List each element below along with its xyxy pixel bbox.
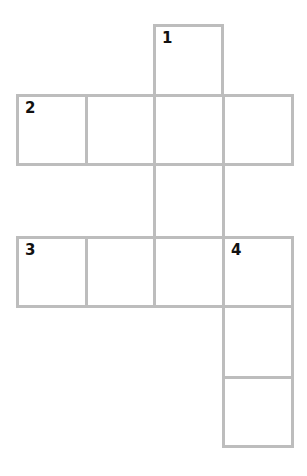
cell[interactable] bbox=[85, 94, 156, 166]
cell[interactable] bbox=[153, 236, 225, 308]
cell-2-across-start[interactable]: 2 bbox=[16, 94, 88, 166]
clue-number: 2 bbox=[25, 99, 35, 117]
clue-number: 3 bbox=[25, 241, 35, 259]
cell[interactable] bbox=[153, 163, 225, 239]
cell[interactable] bbox=[153, 94, 225, 166]
cell-1-down-start[interactable]: 1 bbox=[153, 24, 224, 97]
cell-4-down-start[interactable]: 4 bbox=[222, 236, 294, 308]
clue-number: 4 bbox=[231, 241, 241, 259]
cell[interactable] bbox=[85, 236, 156, 308]
cell[interactable] bbox=[222, 94, 294, 166]
clue-number: 1 bbox=[162, 29, 172, 47]
cell[interactable] bbox=[222, 305, 294, 379]
cell-3-across-start[interactable]: 3 bbox=[16, 236, 88, 308]
cell[interactable] bbox=[222, 376, 294, 448]
